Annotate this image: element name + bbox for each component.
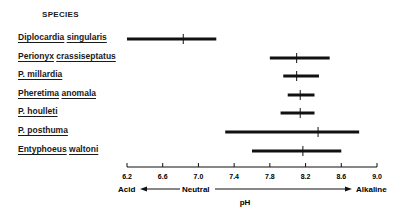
alkaline-label: Alkaline	[356, 185, 387, 194]
x-tick-label: 7.4	[229, 173, 239, 180]
x-tick-label: 9.0	[372, 173, 382, 180]
arrow-right-icon	[345, 187, 352, 192]
x-tick-label: 8.2	[301, 173, 311, 180]
range-bar	[270, 53, 330, 63]
ph-range-chart: 6.26.67.07.47.88.28.69.0AcidNeutralAlkal…	[0, 0, 405, 209]
x-tick-label: 7.0	[194, 173, 204, 180]
x-axis-label: pH	[240, 198, 251, 207]
arrow-left-icon	[140, 187, 147, 192]
x-tick-label: 8.6	[336, 173, 346, 180]
range-bar	[288, 90, 315, 100]
x-tick-label: 7.8	[265, 173, 275, 180]
range-bar	[127, 34, 216, 44]
range-bar	[252, 146, 341, 156]
x-tick-label: 6.6	[158, 173, 168, 180]
range-bar	[225, 127, 359, 137]
range-bar	[281, 108, 315, 118]
acid-label: Acid	[118, 185, 135, 194]
x-tick-label: 6.2	[122, 173, 132, 180]
neutral-label: Neutral	[182, 185, 210, 194]
range-bar	[283, 71, 319, 81]
